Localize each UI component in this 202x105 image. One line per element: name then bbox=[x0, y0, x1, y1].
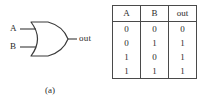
table-row: 0 1 1 bbox=[113, 36, 197, 50]
cell-b: 0 bbox=[141, 22, 169, 37]
cell-a: 0 bbox=[113, 22, 141, 37]
cell-a: 0 bbox=[113, 36, 141, 50]
or-gate-panel: A B out (a) bbox=[0, 0, 101, 105]
cell-a: 1 bbox=[113, 64, 141, 79]
table-row: 1 1 1 bbox=[113, 64, 197, 79]
table-header-row: A B out bbox=[113, 6, 197, 22]
truth-table-panel: A B out 0 0 0 0 1 1 1 0 1 1 1 bbox=[101, 0, 202, 105]
cell-out: 0 bbox=[169, 22, 197, 37]
column-header-out: out bbox=[169, 6, 197, 22]
truth-table: A B out 0 0 0 0 1 1 1 0 1 1 1 bbox=[112, 5, 197, 79]
caption-panel-a: (a) bbox=[30, 86, 70, 95]
cell-out: 1 bbox=[169, 36, 197, 50]
or-gate-body bbox=[31, 22, 68, 56]
cell-a: 1 bbox=[113, 50, 141, 64]
cell-out: 1 bbox=[169, 50, 197, 64]
table-row: 1 0 1 bbox=[113, 50, 197, 64]
input-label-b: B bbox=[10, 42, 16, 51]
table-row: 0 0 0 bbox=[113, 22, 197, 37]
column-header-b: B bbox=[141, 6, 169, 22]
input-label-a: A bbox=[10, 24, 17, 33]
column-header-a: A bbox=[113, 6, 141, 22]
cell-b: 1 bbox=[141, 64, 169, 79]
cell-out: 1 bbox=[169, 64, 197, 79]
output-label: out bbox=[79, 34, 91, 43]
cell-b: 1 bbox=[141, 36, 169, 50]
cell-b: 0 bbox=[141, 50, 169, 64]
